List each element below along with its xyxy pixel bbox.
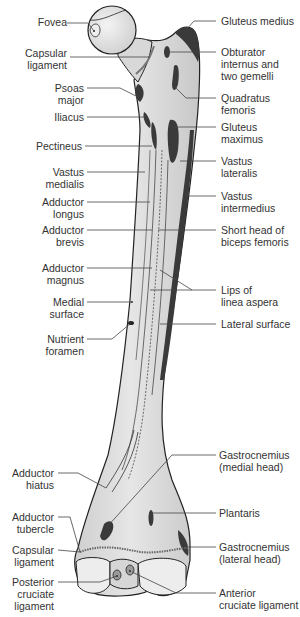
- label-quadratus-femoris: Quadratusfemoris: [221, 92, 270, 116]
- femur-bone: [75, 6, 200, 596]
- acl-attachment: [126, 565, 134, 575]
- label-adductor-longus: Adductorlongus: [42, 196, 84, 220]
- label-short-head-biceps: Short head ofbiceps femoris: [221, 224, 289, 248]
- label-vastus-medialis: Vastusmedialis: [45, 166, 84, 190]
- label-psoas-major: Psoasmajor: [55, 82, 84, 106]
- label-vastus-intermedius: Vastusintermedius: [221, 190, 275, 214]
- label-capsular-ligament-top: Capsularligament: [25, 47, 67, 71]
- label-medial-surface: Medialsurface: [50, 296, 84, 320]
- label-pectineus: Pectineus: [36, 140, 82, 152]
- label-adductor-brevis: Adductorbrevis: [42, 224, 84, 248]
- label-adductor-magnus: Adductormagnus: [42, 262, 84, 286]
- label-capsular-ligament-bottom: Capsularligament: [12, 544, 54, 568]
- label-fovea: Fovea: [38, 16, 67, 28]
- label-gastrocnemius-medial: Gastrocnemius(medial head): [219, 449, 290, 473]
- label-posterior-cruciate-ligament: Posteriorcruciateligament: [12, 576, 54, 612]
- plantaris-attachment: [149, 510, 154, 526]
- label-nutrient-foramen: Nutrientforamen: [45, 333, 84, 357]
- label-iliacus: Iliacus: [54, 111, 84, 123]
- femur-shaft: [75, 27, 200, 596]
- label-plantaris: Plantaris: [219, 507, 260, 519]
- lateral-condyle: [138, 558, 186, 595]
- pcl-attachment: [113, 570, 121, 580]
- label-adductor-hiatus: Adductorhiatus: [12, 467, 54, 491]
- fovea-mark: [90, 24, 100, 37]
- label-adductor-tubercle: Adductortubercle: [12, 511, 54, 535]
- label-obturator-internus: Obturatorinternus andtwo gemelli: [221, 46, 279, 82]
- label-gluteus-medius: Gluteus medius: [221, 15, 294, 27]
- label-gastrocnemius-lateral: Gastrocnemius(lateral head): [219, 541, 290, 565]
- label-lips-linea-aspera: Lips oflinea aspera: [221, 284, 278, 308]
- medial-condyle: [76, 558, 110, 594]
- label-lateral-surface: Lateral surface: [221, 318, 290, 330]
- label-vastus-lateralis: Vastuslateralis: [221, 155, 257, 179]
- label-gluteus-maximus: Gluteusmaximus: [221, 121, 263, 145]
- label-anterior-cruciate-ligament: Anteriorcruciate ligament: [219, 587, 298, 611]
